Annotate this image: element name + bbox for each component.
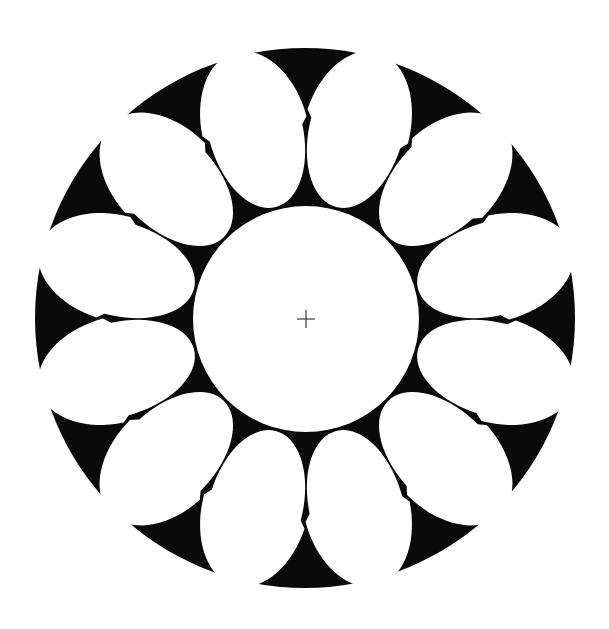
figure-canvas (0, 0, 609, 629)
petal-ring-figure: Black disc with twelve white egg-shaped … (0, 0, 609, 629)
